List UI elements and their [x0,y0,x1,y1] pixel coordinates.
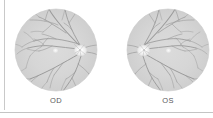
left-divider-rule [4,0,5,110]
fundus-label-od: OD [8,96,104,106]
fundus-image-od[interactable] [8,8,104,92]
fundus-image-os[interactable] [120,8,213,92]
fundus-panel-os[interactable]: OS [120,0,213,112]
fundus-label-os: OS [120,96,213,106]
fundus-panel-od[interactable]: OD [8,0,104,112]
fundus-od-svg [8,8,104,92]
fundus-os-svg [120,8,213,92]
macula-os [166,48,171,53]
fundus-figure: OD [0,0,213,118]
macula-od [53,48,58,53]
bottom-divider-rule [0,112,213,113]
